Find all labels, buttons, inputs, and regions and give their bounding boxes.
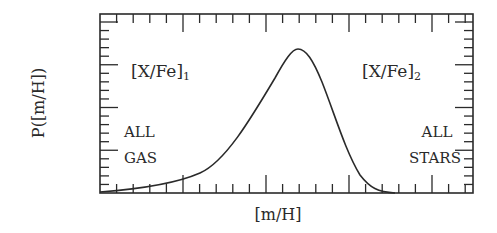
xfe1-label: [X/Fe]1 (131, 61, 190, 83)
chart: [X/Fe]1 [X/Fe]2 ALL GAS ALL STARS [m/H] … (0, 0, 497, 233)
all-stars-line2: STARS (409, 149, 461, 167)
all-gas-line2: GAS (124, 149, 157, 167)
x-axis-label: [m/H] (255, 205, 302, 224)
xfe2-label: [X/Fe]2 (362, 61, 421, 83)
all-stars-line1: ALL (421, 123, 453, 141)
all-gas-line1: ALL (123, 123, 155, 141)
y-axis-label: P([m/H]) (29, 68, 48, 138)
